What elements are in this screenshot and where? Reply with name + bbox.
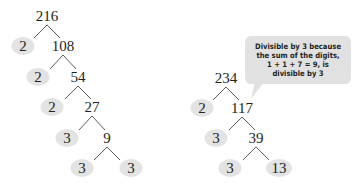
right-composite-117: 117 [231,101,253,116]
divisibility-callout: Divisible by 3 because the sum of the di… [245,36,351,84]
left-prime-5: 3 [71,159,94,177]
callout-line-1: Divisible by 3 because [255,42,341,51]
left-root-216: 216 [36,9,59,24]
tree-branches [0,0,363,192]
right-prime-2: 3 [205,129,228,147]
right-prime-1: 2 [191,99,214,117]
left-prime-1: 2 [12,37,35,55]
callout-line-2: the sum of the digits, [255,51,341,60]
right-composite-39: 39 [249,131,264,146]
callout-line-3: 1 + 1 + 7 = 9, is [255,60,341,69]
left-composite-9: 9 [103,131,111,146]
left-composite-54: 54 [71,70,86,85]
factor-tree-diagram: 216 2 108 2 54 2 27 3 9 3 3 234 2 117 3 … [0,0,363,192]
left-prime-6: 3 [120,159,143,177]
callout-line-4: divisible by 3 [255,69,341,78]
callout-tail [251,82,264,99]
left-prime-2: 2 [27,68,50,86]
left-prime-3: 2 [41,98,64,116]
left-composite-27: 27 [85,100,100,115]
right-prime-4: 13 [266,159,292,177]
left-prime-4: 3 [56,129,79,147]
left-composite-108: 108 [52,39,75,54]
right-root-234: 234 [215,71,238,86]
right-prime-3: 3 [219,159,242,177]
